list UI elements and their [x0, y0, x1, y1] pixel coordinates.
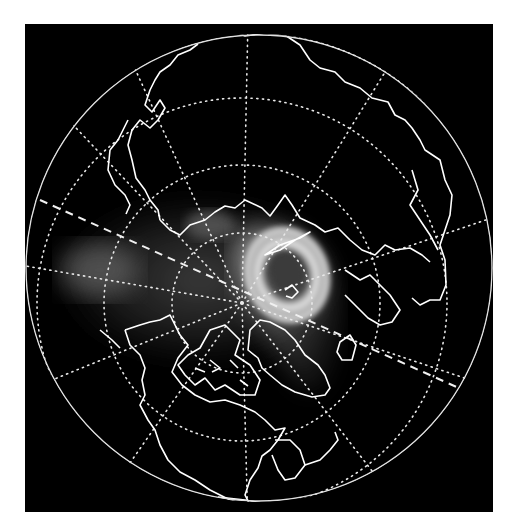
map-hemisphere: northern	[0, 0, 1, 1]
coast-iceland	[337, 335, 356, 360]
coast-south	[218, 497, 320, 506]
polar-map	[25, 24, 493, 512]
map-type: polar-orthographic	[0, 0, 1, 1]
coast-europe-east	[410, 170, 438, 250]
coast-hudson-bay	[272, 440, 305, 480]
glow-overlay	[40, 185, 360, 393]
globe	[25, 24, 493, 512]
coast-labrador	[305, 432, 338, 465]
overlay-description: bright glow / ring feature over northern…	[0, 0, 1, 1]
map-frame	[25, 24, 493, 512]
